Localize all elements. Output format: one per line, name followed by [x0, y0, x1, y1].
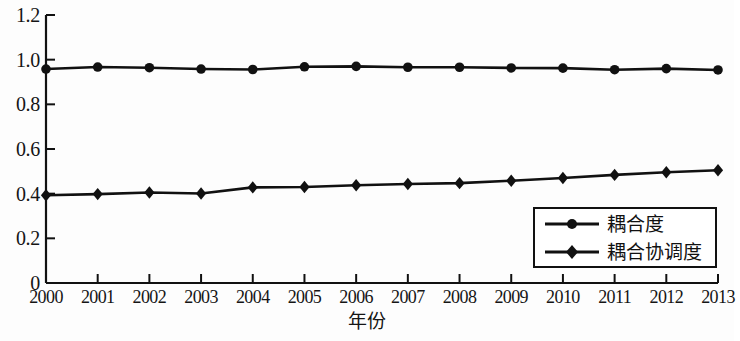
legend-marker-circle-icon — [543, 212, 601, 236]
legend: 耦合度 耦合协调度 — [533, 207, 717, 268]
data-series-layer — [41, 62, 723, 202]
y-tick-label: 0.6 — [0, 139, 40, 159]
data-point-circle-marker — [93, 62, 103, 72]
data-point-diamond-marker — [403, 178, 413, 190]
data-point-diamond-marker — [248, 181, 258, 193]
data-point-circle-marker — [41, 64, 51, 74]
x-tick-label: 2013 — [688, 288, 740, 306]
data-point-circle-marker — [196, 64, 206, 74]
legend-entry-coupling-degree: 耦合度 — [535, 210, 715, 238]
y-tick-label: 1.2 — [0, 5, 40, 25]
data-point-diamond-marker — [506, 175, 516, 187]
data-point-circle-marker — [351, 62, 361, 72]
data-point-circle-marker — [403, 62, 413, 72]
legend-entry-coupling-coordination-degree: 耦合协调度 — [535, 238, 715, 266]
data-point-circle-marker — [300, 62, 310, 72]
data-point-circle-marker — [145, 63, 155, 73]
y-tick-label: 0.8 — [0, 94, 40, 114]
legend-label-coupling-degree: 耦合度 — [607, 213, 664, 235]
data-point-diamond-marker — [713, 164, 723, 176]
data-point-diamond-marker — [558, 172, 568, 184]
data-point-circle-marker — [455, 62, 465, 72]
data-point-diamond-marker — [661, 166, 671, 178]
data-point-circle-marker — [558, 63, 568, 73]
data-point-circle-marker — [610, 65, 620, 75]
legend-label-coupling-coordination-degree: 耦合协调度 — [607, 241, 702, 263]
data-point-diamond-marker — [454, 177, 464, 189]
data-point-diamond-marker — [196, 187, 206, 199]
x-tick-marks — [46, 274, 718, 283]
data-point-diamond-marker — [93, 188, 103, 200]
data-point-circle-marker — [662, 64, 672, 74]
series-coupling-coordination-degree — [41, 164, 723, 201]
series-coupling-degree — [41, 62, 723, 75]
data-point-diamond-marker — [351, 179, 361, 191]
data-point-diamond-marker — [41, 189, 51, 201]
data-point-circle-marker — [506, 63, 516, 73]
y-tick-label: 0.2 — [0, 228, 40, 248]
data-point-circle-marker — [248, 65, 258, 75]
data-point-diamond-marker — [144, 186, 154, 198]
y-tick-label: 1.0 — [0, 50, 40, 70]
data-point-diamond-marker — [299, 181, 309, 193]
data-point-diamond-marker — [610, 169, 620, 181]
x-axis-title: 年份 — [0, 310, 734, 332]
data-point-circle-marker — [713, 65, 723, 75]
legend-marker-diamond-icon — [543, 240, 601, 264]
y-tick-marks — [46, 15, 55, 283]
y-tick-label: 0.4 — [0, 184, 40, 204]
